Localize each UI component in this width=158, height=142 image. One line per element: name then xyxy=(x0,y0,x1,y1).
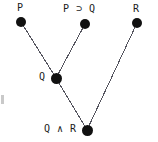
node-label-p: P xyxy=(17,2,24,13)
node-label-q: Q xyxy=(39,71,46,82)
node-p[interactable] xyxy=(16,17,26,27)
node-pimpq[interactable] xyxy=(80,19,90,29)
margin-mark xyxy=(1,95,4,104)
edge-p-q xyxy=(21,22,56,78)
edge-r-qandr xyxy=(87,23,137,130)
node-qandr[interactable] xyxy=(82,125,93,136)
node-label-r: R xyxy=(133,3,140,14)
edge-pimpq-q xyxy=(56,24,85,78)
node-q[interactable] xyxy=(51,73,62,84)
node-label-pimpq: P ⊃ Q xyxy=(63,3,96,14)
node-r[interactable] xyxy=(132,18,142,28)
node-label-qandr: Q ∧ R xyxy=(44,123,77,134)
proof-tree-diagram: PP ⊃ QRQQ ∧ R xyxy=(0,0,158,142)
